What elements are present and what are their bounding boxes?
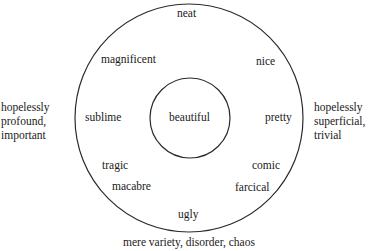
- center-label: beautiful: [169, 111, 210, 124]
- ring-label-upper-right: nice: [256, 55, 275, 68]
- ring-label-top: neat: [177, 7, 196, 20]
- ring-label-farcical: farcical: [235, 181, 269, 194]
- outside-left-line-1: hopelessly: [1, 100, 50, 114]
- ring-label-left: sublime: [85, 111, 121, 124]
- ring-label-upper-left: magnificent: [101, 53, 156, 66]
- ring-label-comic: comic: [252, 159, 280, 172]
- ring-label-tragic: tragic: [102, 159, 128, 172]
- outside-left-line-3: important: [1, 128, 50, 142]
- outside-right-line-3: trivial: [314, 128, 365, 142]
- ring-label-bottom: ugly: [178, 208, 198, 221]
- outside-label-right: hopelessly superficial, trivial: [314, 100, 365, 142]
- ring-label-right: pretty: [265, 111, 292, 124]
- ring-label-macabre: macabre: [112, 180, 151, 193]
- outside-left-line-2: profound,: [1, 114, 50, 128]
- outside-label-bottom: mere variety, disorder, chaos: [123, 236, 255, 249]
- outside-label-left: hopelessly profound, important: [1, 100, 50, 142]
- outside-right-line-1: hopelessly: [314, 100, 365, 114]
- outside-right-line-2: superficial,: [314, 114, 365, 128]
